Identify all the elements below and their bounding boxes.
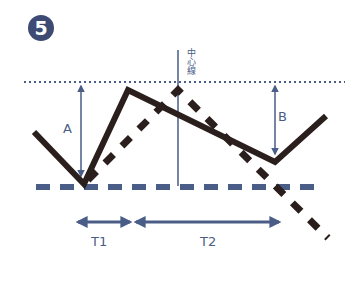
label-a: A	[63, 121, 72, 136]
label-t1: T1	[91, 234, 107, 249]
center-line-label: 中心線	[186, 48, 196, 75]
projected-dashed-line	[88, 90, 328, 238]
label-b: B	[278, 109, 287, 124]
price-solid-line	[34, 90, 326, 184]
wave-diagram-canvas	[0, 0, 362, 287]
label-t2: T2	[200, 234, 216, 249]
